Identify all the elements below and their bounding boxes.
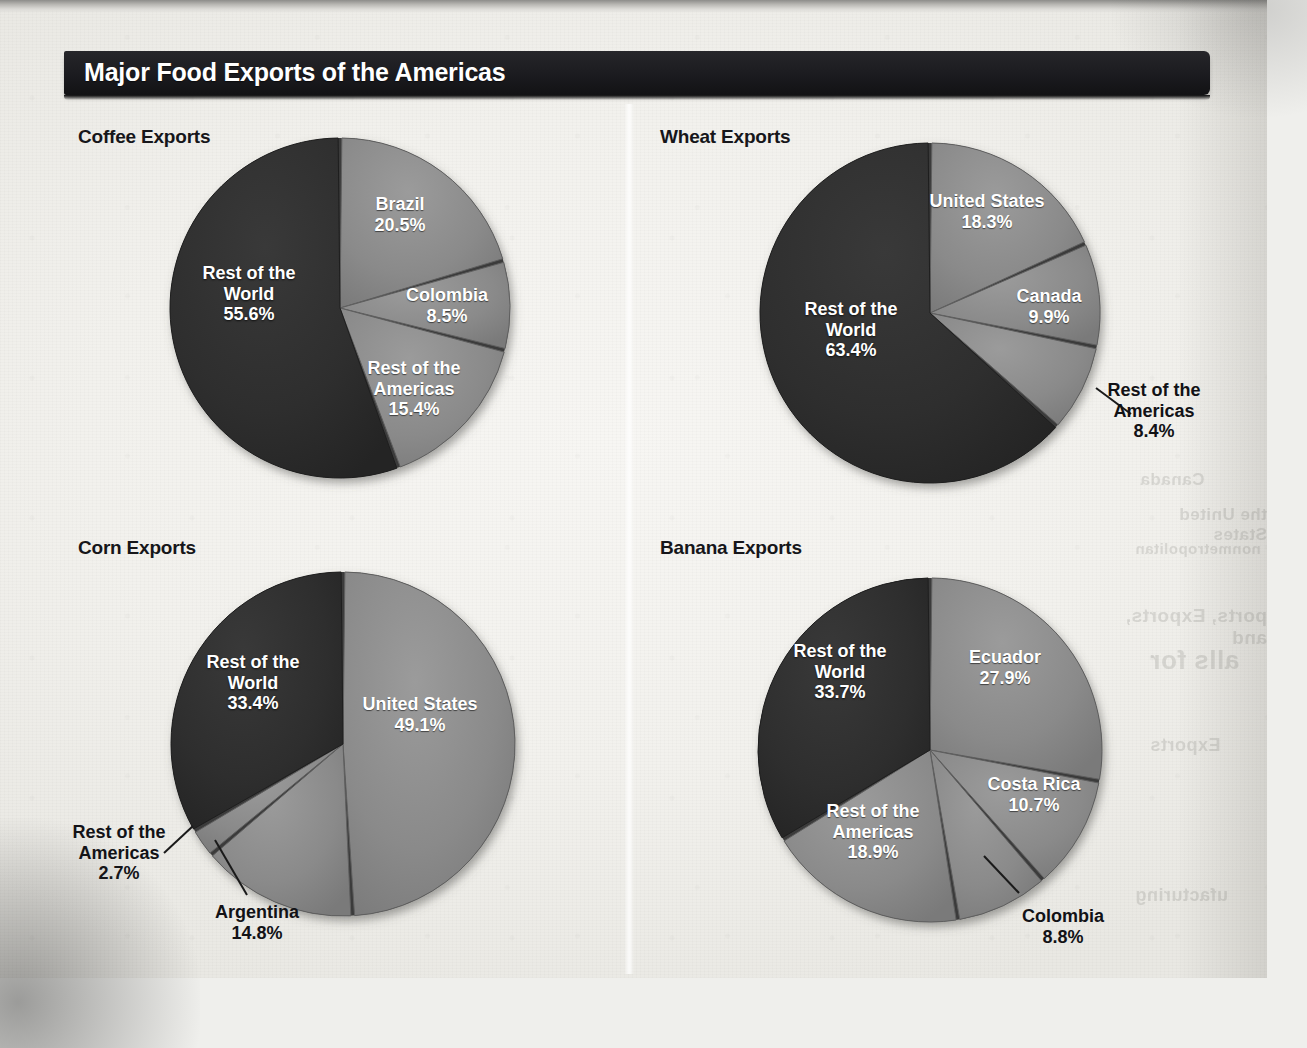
pie-slice-label: Rest of the Americas 15.4% [367,358,460,420]
pie-slice [170,138,397,478]
figure-title: Major Food Exports of the Americas [84,58,506,87]
pie-disc-shadow [760,143,1100,483]
pie-slice [195,744,343,853]
pie-slice [343,572,515,916]
pie-slice [760,143,1056,483]
pie-slice [340,308,504,467]
pie-slice [758,578,930,838]
pie-panel-title-corn: Corn Exports [78,537,196,559]
pie-panel-title-coffee: Coffee Exports [78,126,210,148]
pie-slice [930,750,1099,878]
label-leader-line [164,826,193,853]
label-leader-line [215,840,247,895]
pie-slice [212,744,350,916]
pie-slice [340,262,510,348]
pie-slice-label: Rest of the Americas 8.4% [1107,380,1200,442]
pie-slice [171,572,343,829]
pie-slice-label: United States 49.1% [362,694,477,735]
label-leader-line [1096,388,1131,414]
pie-panel-title-banana: Banana Exports [660,537,802,559]
pie-slice [930,578,1102,779]
pie-slice-label: United States 18.3% [929,191,1044,232]
pie-slice-label: Argentina 14.8% [215,902,299,943]
label-leader-line [984,856,1019,893]
pie-slice-label: Rest of the World 33.7% [793,641,886,703]
pie-slice [930,313,1096,425]
pie-slice [340,138,503,308]
pie-slice-label: Rest of the World 33.4% [206,652,299,714]
pie-slice [930,750,1042,919]
pie-slice-label: Rest of the World 63.4% [804,299,897,361]
figure-title-bar: Major Food Exports of the Americas [64,51,1210,95]
pie-slice-label: Ecuador 27.9% [969,647,1041,688]
pie-slice [784,750,956,922]
pie-disc-shadow [170,138,510,478]
pie-slice-label: Colombia 8.5% [406,285,488,326]
pie-slice [930,143,1084,313]
pie-disc-shadow [758,578,1102,922]
pie-slice [930,245,1100,345]
pie-slice-label: Rest of the World 55.6% [202,263,295,325]
pie-slice-label: Canada 9.9% [1016,286,1081,327]
pie-slice-label: Rest of the Americas 2.7% [72,822,165,884]
pie-slice-label: Colombia 8.8% [1022,906,1104,947]
pie-slice-label: Brazil 20.5% [374,194,425,235]
pie-slice-label: Rest of the Americas 18.9% [826,801,919,863]
pie-slice-label: Costa Rica 10.7% [987,774,1080,815]
column-gutter [624,104,634,974]
pie-disc-shadow [171,572,515,916]
pie-panel-title-wheat: Wheat Exports [660,126,790,148]
